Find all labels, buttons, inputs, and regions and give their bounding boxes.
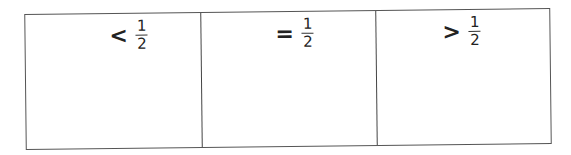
less-than-half-column: < 1 2 (25, 13, 202, 149)
equals-symbol: = (275, 22, 294, 44)
numerator: 1 (469, 15, 481, 31)
less-than-symbol: < (109, 24, 128, 46)
greater-than-half-column: > 1 2 (375, 9, 551, 145)
column-header: < 1 2 (109, 19, 148, 52)
numerator: 1 (302, 17, 314, 33)
denominator: 2 (303, 34, 313, 50)
fraction: 1 2 (302, 17, 314, 50)
denominator: 2 (470, 32, 480, 48)
column-header: = 1 2 (275, 17, 314, 50)
denominator: 2 (137, 36, 147, 52)
greater-than-symbol: > (442, 21, 461, 43)
comparison-table: < 1 2 = 1 2 > 1 2 (24, 8, 552, 150)
column-header: > 1 2 (442, 15, 481, 48)
numerator: 1 (136, 19, 148, 35)
fraction: 1 2 (136, 19, 148, 52)
equal-to-half-column: = 1 2 (200, 11, 377, 147)
fraction: 1 2 (469, 15, 481, 48)
